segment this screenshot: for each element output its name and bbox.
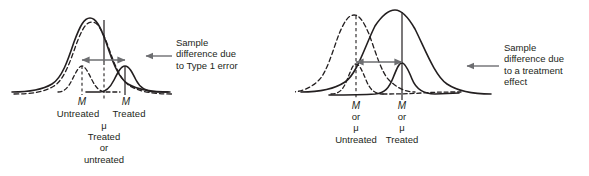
panel-treatment-effect: Sample difference due to a treatment eff… [295, 0, 589, 176]
curve-population-treated-solid [301, 10, 491, 94]
label-untreated-group: Untreated [335, 134, 377, 145]
label-mu-line-2: or [84, 142, 124, 153]
label-treated-mu: μ [386, 122, 418, 133]
label-treated-group: Treated [386, 134, 418, 145]
treatment-effect-curves [295, 0, 589, 176]
label-treated-m: M [386, 100, 418, 111]
label-treated-or: or [386, 111, 418, 122]
annotation-line-1: Sample [176, 37, 238, 48]
label-mu-line-3: untreated [84, 154, 124, 165]
annotation-line-3: to Type 1 error [176, 60, 238, 71]
label-mu: μ [84, 120, 124, 131]
label-m-untreated-group: Untreated [57, 108, 100, 119]
treatment-effect-annotation: Sample difference due to a treatment eff… [504, 42, 564, 88]
label-untreated-mu: μ [335, 122, 377, 133]
annotation-line-3: to a treatment [504, 65, 564, 76]
annotation-line-1: Sample [504, 42, 564, 53]
curve-sample-treated-solid [86, 66, 168, 92]
curve-population-untreated-solid [12, 18, 170, 92]
annotation-line-2: difference due [176, 48, 238, 59]
curve-population-untreated-dashed [295, 15, 415, 92]
annotation-line-2: difference due [504, 53, 564, 64]
label-m-treated-group: Treated [112, 108, 145, 119]
curve-sample-untreated-dashed [331, 64, 383, 94]
label-mu-line-1: Treated [84, 131, 124, 142]
label-m-treated: M [122, 96, 130, 107]
treated-label-stack: M or μ Treated [386, 100, 418, 145]
label-untreated-m: M [335, 100, 377, 111]
mu-label-stack: μ Treated or untreated [84, 120, 124, 165]
annotation-line-4: effect [504, 76, 564, 87]
type-1-error-curves [0, 0, 295, 176]
label-untreated-or: or [335, 111, 377, 122]
type-1-error-annotation: Sample difference due to Type 1 error [176, 37, 238, 71]
panel-type-1-error: Sample difference due to Type 1 error M … [0, 0, 295, 176]
label-m-untreated: M [78, 96, 86, 107]
statistics-figure: Sample difference due to Type 1 error M … [0, 0, 589, 176]
untreated-label-stack: M or μ Untreated [335, 100, 377, 145]
